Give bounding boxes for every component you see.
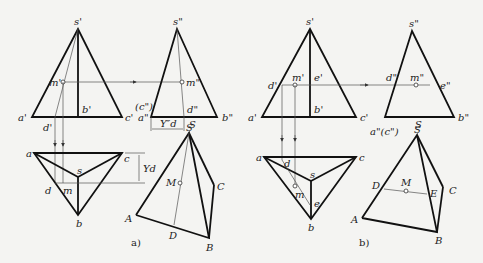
label: d [284, 158, 290, 169]
label: B [205, 242, 213, 253]
label: b [76, 218, 82, 229]
label: B [434, 235, 442, 246]
label: s [310, 169, 315, 180]
label: b" [458, 112, 469, 123]
label: s [77, 165, 82, 176]
label: E [429, 188, 438, 199]
label: C [449, 185, 457, 196]
label: a"(c") [370, 126, 399, 137]
label: m" [410, 72, 424, 83]
label: c [124, 153, 130, 164]
label: D [168, 230, 177, 241]
top-view-b: a c b s d m e [256, 152, 365, 233]
label: C [217, 181, 225, 192]
label: c' [125, 112, 133, 123]
label: e [314, 198, 320, 209]
label: d' [43, 122, 52, 133]
label: a' [248, 112, 257, 123]
figure-b: s' a' c' b' m' d' e' s" m" d" e" a"(c") … [248, 16, 469, 248]
label: a [26, 148, 32, 159]
label: m [63, 185, 72, 196]
label: e' [314, 72, 323, 83]
label: M [165, 177, 177, 188]
label: c [359, 152, 365, 163]
label: e" [440, 80, 451, 91]
label: D [371, 180, 380, 191]
label: b" [222, 112, 233, 123]
front-view-b: s' a' c' b' m' d' e' [248, 16, 430, 186]
label: s" [173, 16, 183, 27]
label: A [124, 213, 132, 224]
top-view-a: a c b s d m Yd [26, 148, 156, 229]
pictorial-b: S A B C D E M [350, 124, 457, 246]
label: S [414, 124, 421, 135]
dimension-label: Yd [143, 163, 156, 174]
label: b' [82, 104, 91, 115]
label: d" [386, 72, 397, 83]
label: d" [187, 104, 198, 115]
label: A [350, 214, 358, 225]
pictorial-a: S A B C D M [124, 122, 225, 253]
caption-a: a) [131, 237, 141, 248]
label: m [295, 189, 304, 200]
label: b [308, 222, 314, 233]
label: (c") [135, 101, 153, 112]
side-view-a: s" m" d" (c") a" b" Y″d S [135, 16, 233, 131]
figure-a: s' a' c' b' m' d' s" m" d" (c") a" b" Y″… [18, 16, 233, 253]
label: a [256, 152, 262, 163]
label: a" [138, 112, 149, 123]
label: m" [186, 77, 200, 88]
label: d [45, 185, 51, 196]
label: M [400, 177, 412, 188]
pyramid-projection-diagram: s' a' c' b' m' d' s" m" d" (c") a" b" Y″… [0, 0, 483, 263]
label: a' [18, 112, 27, 123]
label: s" [409, 18, 419, 29]
label: m' [49, 77, 61, 88]
label: s' [74, 16, 82, 27]
label: c' [360, 112, 368, 123]
label: d' [268, 80, 277, 91]
dimension-label: Y″d [160, 118, 177, 129]
label: S [186, 122, 193, 133]
caption-b: b) [359, 237, 369, 248]
side-view-b: s" m" d" e" a"(c") b" S [370, 18, 469, 137]
label: m' [292, 72, 304, 83]
label: b' [314, 104, 323, 115]
label: s' [306, 16, 314, 27]
